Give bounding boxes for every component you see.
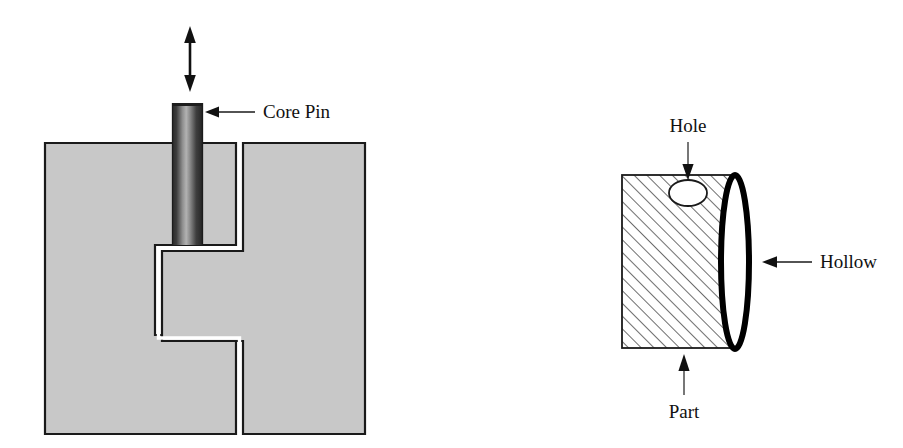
- hollow-ellipse: [721, 175, 749, 349]
- hollow-label: Hollow: [820, 251, 877, 272]
- core-pin-label: Core Pin: [263, 101, 331, 122]
- part-label: Part: [669, 401, 700, 422]
- technical-diagram-figure: Core Pin Hole Hollow: [0, 0, 903, 448]
- core-pin-top-edge: [172, 103, 203, 106]
- diagram-canvas: Core Pin Hole Hollow: [0, 0, 903, 448]
- hole-ellipse: [669, 180, 707, 206]
- core-pin: [172, 103, 203, 245]
- hole-label: Hole: [670, 115, 707, 136]
